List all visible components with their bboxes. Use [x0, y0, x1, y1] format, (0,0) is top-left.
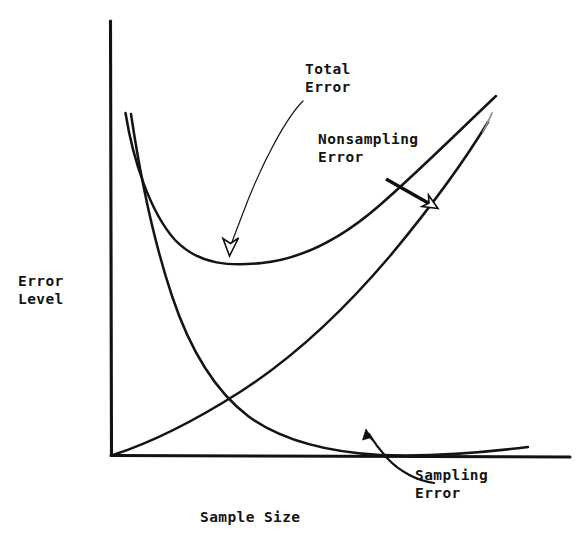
nonsampling-error-curve-fade [483, 113, 492, 132]
sampling-error-annotation-line1: Sampling [415, 467, 488, 483]
y-axis-label: ErrorLevel [18, 272, 64, 308]
total-error-annotation-label: TotalError [305, 60, 351, 96]
nonsampling-error-annotation-line1: Nonsampling [318, 131, 418, 147]
total-error-arrowhead-icon [223, 238, 239, 256]
error-vs-sample-size-figure: TotalError NonsamplingError SamplingErro… [0, 0, 581, 542]
sampling-error-arrowhead-icon [363, 429, 375, 442]
total-error-annotation-line2: Error [305, 79, 351, 95]
y-axis [111, 21, 112, 456]
figure-canvas [0, 0, 581, 542]
y-axis-label-line1: Error [18, 273, 64, 289]
total-error-curve [126, 96, 497, 264]
x-axis [111, 456, 570, 458]
nonsampling-error-annotation-label: NonsamplingError [318, 130, 418, 166]
sampling-error-annotation-line2: Error [415, 485, 461, 501]
nonsampling-error-leader-line [386, 179, 430, 204]
total-error-leader-line [231, 101, 303, 245]
x-axis-label: Sample Size [200, 508, 300, 526]
y-axis-label-line2: Level [18, 291, 64, 307]
sampling-error-annotation-label: SamplingError [415, 466, 488, 502]
nonsampling-error-annotation-line2: Error [318, 149, 364, 165]
total-error-annotation-line1: Total [305, 61, 351, 77]
